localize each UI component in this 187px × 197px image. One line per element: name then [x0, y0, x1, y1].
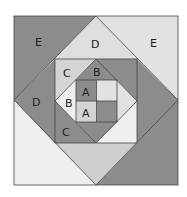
label-middle-top-left: C	[63, 67, 71, 80]
label-inner-top: B	[93, 66, 101, 79]
label-inner-left: B	[65, 97, 73, 110]
label-outer-top-left: E	[35, 36, 42, 49]
grid-cell-top-right	[97, 80, 118, 101]
label-diamond-left: D	[32, 96, 40, 109]
label-grid-bottom-left: A	[82, 107, 90, 120]
label-grid-top-left: A	[82, 86, 90, 99]
label-outer-top-right: E	[150, 37, 157, 50]
grid-cell-bottom-right	[97, 101, 118, 122]
label-middle-bottom-left: C	[62, 126, 70, 139]
nested-squares-diagram: E E D D C C B B A A	[0, 0, 187, 197]
label-diamond-top: D	[91, 38, 99, 51]
